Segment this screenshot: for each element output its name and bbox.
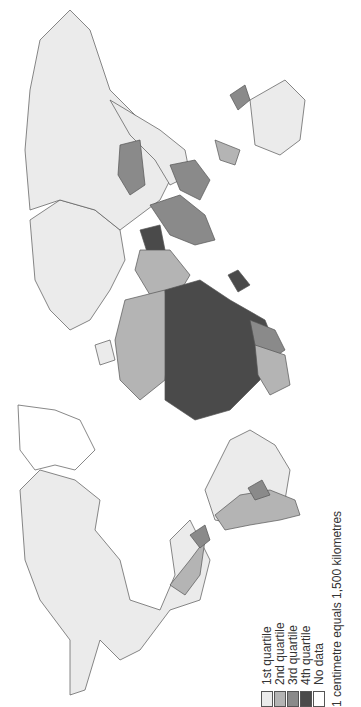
legend-item-2nd-quartile: 2nd quartile bbox=[273, 407, 286, 707]
swatch-no-data bbox=[313, 691, 325, 707]
swatch-4th-quartile bbox=[300, 691, 312, 707]
legend-label: 4th quartile bbox=[299, 626, 313, 685]
legend-item-no-data: No data bbox=[312, 407, 325, 707]
greenland bbox=[18, 405, 95, 470]
scale-note: 1 centimetre equals 1,500 kilometres bbox=[330, 407, 344, 707]
swatch-3rd-quartile bbox=[287, 691, 299, 707]
swatch-2nd-quartile bbox=[274, 691, 286, 707]
legend-label: 2nd quartile bbox=[273, 622, 287, 685]
legend-label: No data bbox=[312, 643, 326, 685]
australia bbox=[250, 80, 305, 155]
indonesia bbox=[215, 140, 240, 165]
legend-item-1st-quartile: 1st quartile bbox=[260, 407, 273, 707]
africa-south bbox=[255, 345, 290, 395]
legend-label: 3rd quartile bbox=[286, 625, 300, 685]
philippines bbox=[230, 85, 250, 110]
madagascar bbox=[228, 270, 250, 292]
british-isles bbox=[95, 340, 115, 365]
legend-item-3rd-quartile: 3rd quartile bbox=[286, 407, 299, 707]
legend-label: 1st quartile bbox=[260, 626, 274, 685]
africa-north bbox=[115, 290, 170, 400]
legend-item-4th-quartile: 4th quartile bbox=[299, 407, 312, 707]
asia bbox=[25, 10, 170, 230]
map-legend: 1st quartile 2nd quartile 3rd quartile 4… bbox=[260, 407, 344, 707]
swatch-1st-quartile bbox=[261, 691, 273, 707]
southeast-asia bbox=[170, 160, 210, 200]
